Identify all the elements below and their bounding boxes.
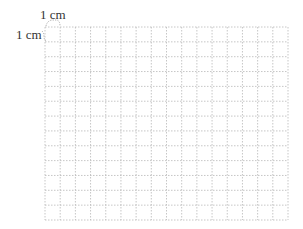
- left-dimension-bracket: [42, 31, 46, 41]
- grid-paper: [0, 0, 303, 229]
- grid-lines: [45, 27, 288, 220]
- top-dimension-bracket: [46, 20, 60, 26]
- grid-diagram: 1 cm 1 cm: [0, 0, 303, 229]
